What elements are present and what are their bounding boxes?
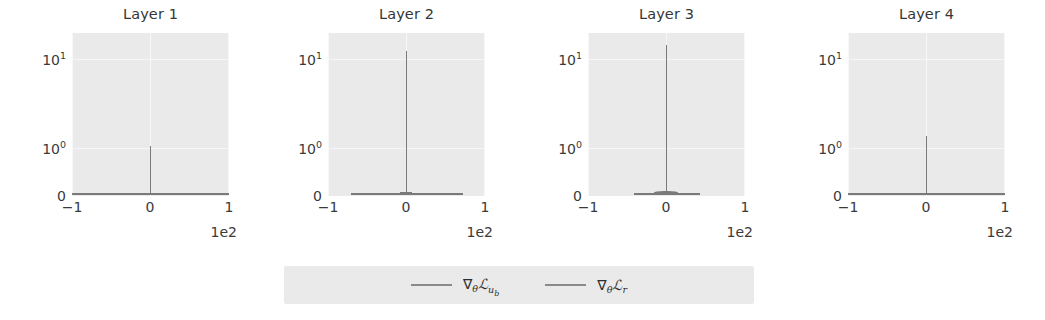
xtick-0: 0 [386, 199, 426, 215]
xtick-1: 1 [725, 199, 765, 215]
x-offset-text: 1e2 [516, 224, 753, 240]
x-offset-text: 1e2 [776, 224, 1013, 240]
axes-area [588, 33, 745, 196]
ytick-10e1: 101 [778, 52, 842, 68]
gridline-v-3 [1004, 33, 1005, 196]
xtick-neg1: −1 [52, 199, 92, 215]
panel-title: Layer 2 [328, 6, 485, 22]
legend-line-swatch-r [545, 284, 586, 286]
ytick-10e1: 101 [258, 52, 322, 68]
panel-layer-4: Layer 4 101 100 0 −1 0 1 1e2 [776, 0, 1037, 252]
xtick-1: 1 [209, 199, 249, 215]
gridline-v-3 [744, 33, 745, 196]
gridline-v-3 [484, 33, 485, 196]
trace-spike [926, 136, 928, 195]
x-offset-text: 1e2 [256, 224, 493, 240]
panel-layer-3: Layer 3 101 100 0 −1 0 1 1e2 [516, 0, 777, 252]
trace-spike [150, 146, 152, 195]
panel-title: Layer 4 [848, 6, 1005, 22]
legend: ∇θℒub ∇θℒr [284, 266, 754, 304]
panel-title: Layer 3 [588, 6, 745, 22]
ytick-10e0: 100 [518, 141, 582, 157]
legend-line-swatch-ub [411, 284, 452, 286]
panels-row: Layer 1 101 100 0 −1 0 1 1e2 Layer 2 101… [0, 0, 1045, 252]
xtick-neg1: −1 [828, 199, 868, 215]
axes-area [328, 33, 485, 196]
xtick-neg1: −1 [308, 199, 348, 215]
gridline-v-3 [228, 33, 229, 196]
trace-spike [666, 45, 668, 195]
xtick-0: 0 [646, 199, 686, 215]
panel-layer-1: Layer 1 101 100 0 −1 0 1 1e2 [0, 0, 261, 252]
panel-title: Layer 1 [72, 6, 229, 22]
legend-label-r: ∇θℒr [597, 277, 627, 293]
ytick-10e1: 101 [518, 52, 582, 68]
legend-label-ub: ∇θℒub [463, 276, 499, 293]
xtick-1: 1 [985, 199, 1025, 215]
xtick-0: 0 [906, 199, 946, 215]
xtick-1: 1 [465, 199, 505, 215]
gridline-v-1 [328, 33, 329, 196]
gridline-v-1 [848, 33, 849, 196]
ytick-10e0: 100 [258, 141, 322, 157]
gradient-distribution-figure: Layer 1 101 100 0 −1 0 1 1e2 Layer 2 101… [0, 0, 1045, 320]
ytick-10e1: 101 [2, 52, 66, 68]
xtick-neg1: −1 [568, 199, 608, 215]
gridline-v-1 [72, 33, 73, 196]
ytick-10e0: 100 [2, 141, 66, 157]
trace-spike [406, 51, 408, 195]
legend-entry-grad-L-ub[interactable]: ∇θℒub [411, 276, 499, 293]
axes-area [848, 33, 1005, 196]
axes-area [72, 33, 229, 196]
xtick-0: 0 [130, 199, 170, 215]
legend-entry-grad-L-r[interactable]: ∇θℒr [545, 277, 627, 293]
ytick-10e0: 100 [778, 141, 842, 157]
gridline-v-1 [588, 33, 589, 196]
panel-layer-2: Layer 2 101 100 0 −1 0 1 1e2 [256, 0, 517, 252]
x-offset-text: 1e2 [0, 224, 237, 240]
